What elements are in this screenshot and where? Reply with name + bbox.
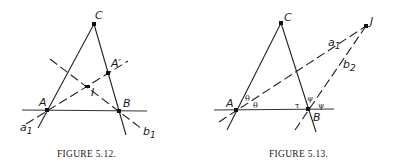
caption-figure-5-12: FIGURE 5.12. — [57, 149, 116, 159]
point-c — [279, 21, 283, 25]
angle-psi-left: ψ — [307, 94, 313, 103]
diagram-canvas: C A B A′ I a1 b1 FIGURE 5.12. C A B J a1… — [0, 0, 399, 160]
angle-tau: τ — [295, 101, 300, 110]
label-j: J — [368, 15, 373, 28]
label-b: B — [313, 111, 321, 124]
label-a: A — [225, 97, 234, 110]
point-i — [85, 85, 90, 88]
label-b2: b2 — [343, 58, 356, 73]
figure-5-12: C A B A′ I a1 b1 FIGURE 5.12. — [20, 9, 156, 159]
line-a1 — [26, 61, 128, 124]
point-b — [117, 109, 121, 113]
line-ac — [38, 24, 94, 128]
label-b: B — [123, 97, 131, 110]
angle-psi-right: ψ — [318, 101, 324, 110]
line-ab — [22, 110, 147, 111]
caption-figure-5-13: FIGURE 5.13. — [269, 149, 328, 159]
label-a-prime: A′ — [110, 57, 122, 70]
label-c: C — [95, 9, 103, 22]
label-a: A — [38, 96, 47, 109]
label-c: C — [284, 11, 292, 24]
point-b — [306, 107, 310, 111]
point-c — [92, 22, 96, 26]
label-a1: a1 — [328, 36, 340, 51]
label-i: I — [91, 86, 94, 99]
angle-theta-lower: θ — [253, 101, 258, 110]
line-ac — [227, 23, 281, 130]
angle-theta-upper: θ — [245, 94, 250, 103]
line-b1 — [50, 59, 142, 129]
label-b1: b1 — [143, 125, 156, 140]
point-a-prime — [106, 71, 110, 75]
point-j — [364, 24, 368, 28]
label-a1: a1 — [20, 121, 32, 136]
figure-5-13: C A B J a1 b2 θ θ τ ψ ψ FIGURE 5.13. — [214, 11, 373, 159]
point-a — [234, 108, 238, 112]
line-a1 — [219, 26, 366, 122]
